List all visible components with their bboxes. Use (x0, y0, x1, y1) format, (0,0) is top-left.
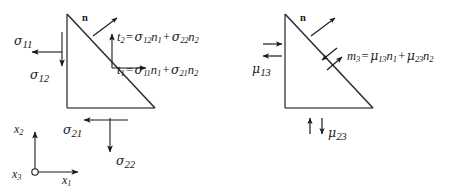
axis-x2-label: x2 (14, 123, 23, 137)
mu23-symbol: μ (328, 125, 336, 140)
m3-term2-sub: 23 (415, 54, 423, 64)
m3-term2-factor-sub: 2 (429, 54, 433, 64)
sigma22-subscript: 22 (125, 158, 135, 170)
t1-term1-sub: 11 (143, 68, 150, 78)
right-normal-label: n (300, 13, 306, 24)
mu13-subscript: 13 (260, 66, 270, 78)
mu23-label: μ23 (328, 124, 347, 142)
sigma21-symbol: σ (63, 122, 72, 137)
figure-canvas: n σ11 σ12 σ21 σ22 t2=σ12n1+σ22n2 t1=σ11n… (0, 0, 454, 194)
figure-vector-layer (0, 0, 454, 194)
m3-term2-symbol: μ (407, 48, 415, 63)
right-normal-arrow (311, 18, 335, 36)
sigma11-symbol: σ (14, 33, 23, 48)
t1-term2-symbol: σ (171, 62, 180, 77)
axis-x1-label: x1 (62, 174, 71, 188)
axis-x1-subscript: 1 (67, 179, 71, 188)
axis-x3-subscript: 3 (17, 173, 21, 182)
plus-sign-t2: + (162, 30, 172, 44)
t2-lhs-sub: 2 (120, 35, 124, 45)
left-normal-arrow (93, 18, 117, 36)
sigma22-label: σ22 (116, 152, 135, 170)
mu13-symbol: μ (252, 61, 260, 76)
t2-term1-factor-sub: 1 (158, 35, 162, 45)
mu13-label: μ13 (252, 60, 271, 78)
t2-term2-symbol: σ (172, 29, 181, 44)
t1-term2-sub: 21 (180, 68, 188, 78)
plus-sign-m3: + (397, 49, 407, 63)
left-normal-label: n (82, 13, 88, 24)
equals-sign-m3: = (360, 49, 370, 63)
equals-sign-t2: = (125, 30, 135, 44)
t2-term1-symbol: σ (135, 29, 144, 44)
mu13-couple-arrows (263, 44, 282, 56)
sigma12-subscript: 12 (39, 72, 49, 84)
sigma21-subscript: 21 (72, 127, 82, 139)
t1-lhs-sub: 1 (120, 68, 124, 78)
axis-x2-subscript: 2 (19, 128, 23, 137)
mu23-subscript: 23 (336, 130, 346, 142)
sigma11-label: σ11 (14, 32, 32, 50)
t1-term2-factor-sub: 2 (194, 68, 198, 78)
m3-couple-arrows (322, 48, 342, 70)
equation-t2: t2=σ12n1+σ22n2 (117, 31, 199, 45)
mu23-couple-arrows (310, 118, 322, 134)
t1-term1-symbol: σ (135, 62, 144, 77)
equation-t1: t1=σ11n1+σ21n2 (117, 64, 198, 78)
plus-sign-t1: + (161, 63, 171, 77)
sigma21-label: σ21 (63, 121, 82, 139)
sigma11-subscript: 11 (23, 38, 33, 50)
sigma12-symbol: σ (30, 67, 39, 82)
axis-x3-label: x3 (12, 168, 21, 182)
m3-lhs: m (347, 49, 356, 63)
t2-term2-factor-sub: 2 (195, 35, 199, 45)
sigma22-symbol: σ (116, 153, 125, 168)
equation-m3: m3=μ13n1+μ23n2 (347, 50, 433, 64)
sigma12-label: σ12 (30, 66, 49, 84)
equals-sign-t1: = (125, 63, 135, 77)
